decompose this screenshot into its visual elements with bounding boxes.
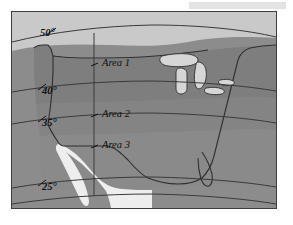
lake-superior <box>160 54 198 67</box>
scan-artifact-strip <box>189 2 286 9</box>
latitude-label-40: 40° <box>42 85 57 96</box>
map-frame: 50° 40° 35° 25° Area 1 Area 2 Area 3 <box>11 11 277 209</box>
lake-erie <box>205 87 225 94</box>
figure-root: 50° 40° 35° 25° Area 1 Area 2 Area 3 <box>0 0 293 225</box>
lake-michigan <box>176 68 187 94</box>
area-label-2: Area 2 <box>102 108 130 119</box>
area-label-3: Area 3 <box>102 139 130 150</box>
latitude-label-50: 50° <box>40 27 55 38</box>
latitude-label-25: 25° <box>42 181 57 192</box>
latitude-label-35: 35° <box>42 117 57 128</box>
area-label-1: Area 1 <box>102 57 130 68</box>
map-graphic <box>12 12 276 208</box>
